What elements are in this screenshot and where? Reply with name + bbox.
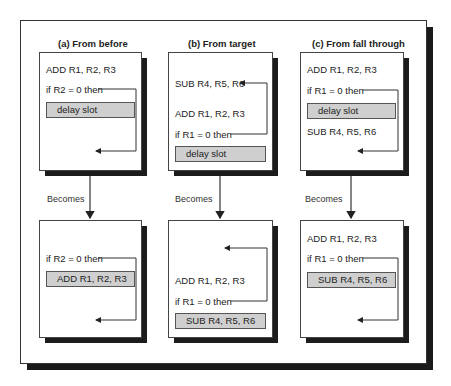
branch-arrows	[0, 0, 451, 386]
panel-a-after-branch-arrow	[96, 258, 136, 320]
panel-b-before-branch-arrow	[230, 83, 267, 134]
panel-a-before-branch-arrow	[96, 89, 136, 151]
panel-c-after-branch-arrow	[358, 258, 398, 320]
panel-c-before-branch-arrow	[358, 90, 398, 151]
panel-b-after-branch-arrow	[225, 248, 267, 301]
